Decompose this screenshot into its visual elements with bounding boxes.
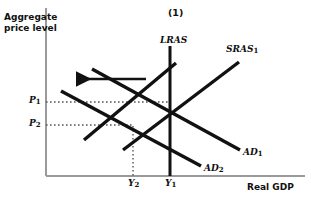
curve-label-lras: LRAS	[160, 36, 187, 46]
panel-title: (1)	[168, 8, 183, 18]
tick-label-y2: Y2	[128, 179, 139, 189]
tick-label-p1-sub: 1	[36, 97, 41, 106]
tick-label-p1: P1	[29, 96, 41, 106]
curve-label-sras1: SRAS1	[226, 45, 258, 55]
ad-as-diagram: (1) Aggregate price level Real GDP P1 P2…	[0, 0, 311, 211]
curve-label-lras-text: LRAS	[160, 35, 187, 45]
tick-label-y1: Y1	[165, 179, 176, 189]
curve-label-sras1-text: SRAS	[226, 44, 253, 54]
curve-label-ad2-sub: 2	[219, 165, 224, 174]
tick-label-y2-sub: 2	[134, 180, 139, 189]
tick-label-p2: P2	[29, 119, 41, 129]
curve-label-ad2: AD2	[204, 164, 224, 174]
y-axis-title-line1: Aggregate	[4, 13, 57, 23]
tick-label-p2-text: P	[29, 118, 36, 128]
tick-label-y1-sub: 1	[171, 180, 176, 189]
curve-label-sras1-sub: 1	[253, 46, 258, 55]
curve-label-ad1-sub: 1	[258, 149, 263, 158]
tick-label-p2-sub: 2	[36, 120, 41, 129]
y-axis-title-line2: price level	[4, 24, 57, 34]
curve-label-ad1: AD1	[243, 148, 263, 158]
curve-label-ad2-text: AD	[204, 163, 219, 173]
curve-ad1	[92, 69, 240, 150]
tick-label-p1-text: P	[29, 95, 36, 105]
curve-label-ad1-text: AD	[243, 147, 258, 157]
x-axis-title: Real GDP	[247, 183, 294, 193]
curve-sras1	[123, 62, 239, 150]
